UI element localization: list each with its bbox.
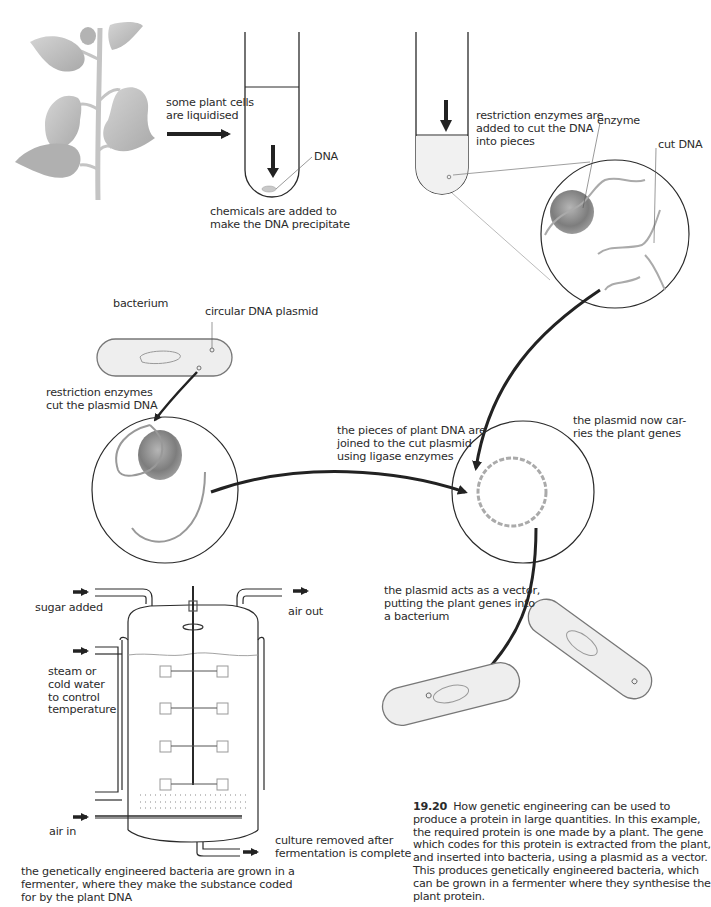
label-sugar-added: sugar added — [35, 602, 103, 615]
label-liquidised: some plant cells are liquidised — [166, 97, 254, 123]
label-enzyme: enzyme — [597, 115, 640, 128]
label-air-out: air out — [288, 606, 323, 619]
label-fermenter-description: the genetically engineered bacteria are … — [21, 866, 295, 904]
label-precipitate: chemicals are added to make the DNA prec… — [210, 206, 350, 232]
plant-illustration — [15, 22, 155, 200]
figure-caption-text: How genetic engineering can be used to p… — [413, 800, 711, 903]
label-dna: DNA — [314, 151, 338, 164]
figure-number: 19.20 — [413, 800, 447, 813]
arrow-to-plasmid-circle — [155, 372, 197, 420]
figure-caption: 19.20How genetic engineering can be used… — [413, 801, 711, 903]
label-bacterium: bacterium — [113, 298, 168, 311]
label-air-in: air in — [49, 826, 76, 839]
test-tube-dna — [245, 32, 312, 197]
label-steam: steam or cold water to control temperatu… — [48, 666, 116, 717]
label-ligase: the pieces of plant DNA are joined to th… — [337, 425, 486, 463]
label-cut-dna: cut DNA — [658, 139, 702, 152]
fermenter — [95, 586, 282, 856]
label-restriction-enzymes: restriction enzymes are added to cut the… — [476, 110, 603, 148]
arrow-to-ligase-circle — [211, 472, 465, 492]
label-vector: the plasmid acts as a vector, putting th… — [384, 585, 540, 623]
arrow-from-cut-dna — [476, 290, 600, 468]
label-circular-plasmid: circular DNA plasmid — [205, 306, 318, 319]
label-plasmid-carries: the plasmid now car- ries the plant gene… — [573, 415, 686, 441]
test-tube-restriction — [416, 32, 590, 280]
label-restriction-plasmid: restriction enzymes cut the plasmid DNA — [46, 387, 158, 413]
bacterium-original — [97, 322, 232, 376]
label-culture-removed: culture removed after fermentation is co… — [275, 835, 411, 861]
